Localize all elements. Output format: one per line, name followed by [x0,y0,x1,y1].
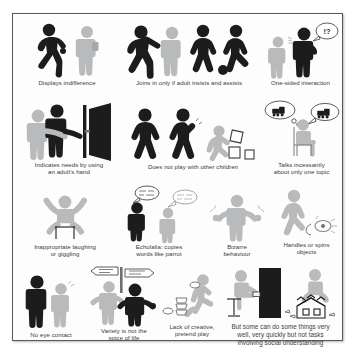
panel-inappropriate-laughing-or-giggling: Inappropriate laughing or giggling [15,186,115,258]
panel-caption: Indicates needs by using an adult's hand [13,161,125,176]
adult-pushing-child-toward-ball-game-icon [119,20,259,78]
panel-bizarre-behaviour: Bizarre behaviour [201,190,273,258]
panel-caption: Bizarre behaviour [201,243,273,258]
panel-does-not-play-with-other-children: Does not play with other children [123,104,263,170]
panel-caption: Variety is not the spice of life [85,327,163,342]
panel-savant-abilities: But some can do some things very well, v… [219,266,342,346]
figure-talking-with-exclamation-question-bubble-icon: !? [259,20,342,78]
poster-panel: Displays indifference [12,13,343,341]
poster-row-1: Displays indifference [13,20,342,98]
seated-figure-arms-raised-laughing-icon [15,186,115,242]
piano-player-and-card-house-builder-icon [219,266,342,322]
panel-caption: Displays indifference [15,79,119,86]
figure-with-flapping-hands-icon [201,190,273,242]
panel-caption: But some can do some things very well, v… [219,323,342,346]
panel-caption: One-sided interaction [259,79,342,86]
panel-caption: Inappropriate laughing or giggling [15,243,115,258]
svg-text:!?: !? [323,27,330,36]
panel-one-sided-interaction: !? One-sided interaction [259,20,342,86]
speech-bubble-exclamation-question: !? [313,23,338,41]
speech-bubble-dark-figure [133,186,159,203]
two-figures-avoiding-gaze-icon [15,272,87,330]
two-figures-mirrored-speech-bubbles-icon [115,184,203,242]
panel-handles-or-spins-objects: Handles or spins objects [271,186,342,256]
child-stacking-cups-icon [161,270,223,322]
thought-bubble-left [265,101,299,126]
panel-joins-in-only-if-adult-insists: Joins in only if adult insists and assis… [119,20,259,86]
panel-caption: Echolalia: copies words like parrot [115,243,203,258]
speech-bubble-right [308,103,339,124]
panel-variety-is-not-the-spice-of-life: Variety is not the spice of life [85,264,163,342]
panel-caption: Handles or spins objects [271,241,342,256]
panel-echolalia-copies-words-like-parrot: Echolalia: copies words like parrot [115,184,203,258]
panel-no-eye-contact: No eye contact [15,272,87,338]
panel-caption: Talks incessantly about only one topic [261,161,342,176]
panel-displays-indifference: Displays indifference [15,20,119,86]
panel-indicates-needs-using-adults-hand: Indicates needs by using an adult's hand [13,100,125,176]
speech-bubble-light-figure [168,190,197,207]
panel-talks-incessantly-about-one-topic: Talks incessantly about only one topic [261,100,342,176]
figures-at-signpost-icon [85,264,163,326]
two-running-figures-and-child-with-blocks-icon [123,104,263,162]
child-leading-adult-hand-to-door-icon [13,100,125,160]
panel-caption: No eye contact [15,331,87,338]
panel-caption: Lack of creative, pretend play [161,323,223,338]
poster-row-2: Indicates needs by using an adult's hand [13,100,342,178]
panel-caption: Joins in only if adult insists and assis… [119,79,259,86]
two-figures-walking-away-icon [15,20,119,78]
signpost [91,267,154,293]
panel-lack-of-creative-pretend-play: Lack of creative, pretend play [161,270,223,338]
seated-figure-with-train-thought-and-speech-bubbles-icon [261,100,342,160]
poster-row-4: No eye contact [13,264,342,342]
figure-spinning-object-icon [271,186,342,240]
poster-row-3: Inappropriate laughing or giggling [13,184,342,259]
panel-caption: Does not play with other children [123,163,263,170]
